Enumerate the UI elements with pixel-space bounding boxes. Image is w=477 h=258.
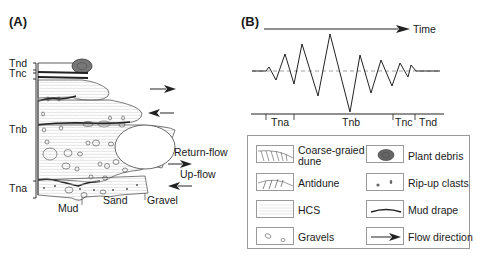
- time-arrow-icon: [264, 25, 410, 33]
- legend-label-mud-drape: Mud drape: [408, 205, 458, 216]
- wave-signal: [252, 34, 440, 112]
- panel-b-label: (B): [241, 14, 259, 29]
- up-flow-arrow-icon: [168, 182, 192, 190]
- return-flow-arrow-icon: [168, 160, 192, 168]
- legend-label-hcs: HCS: [298, 205, 320, 216]
- legend: Coarse-graied dune Plant debris Antidune…: [247, 135, 470, 249]
- grain-label-mud: Mud: [58, 202, 78, 214]
- interval-label-tnd: Tnd: [419, 116, 437, 128]
- time-label: Time: [413, 23, 436, 35]
- plant-debris-icon: [366, 145, 404, 163]
- legend-label-gravels: Gravels: [298, 232, 334, 243]
- interval-label-tnb: Tnb: [342, 116, 360, 128]
- legend-label-plant-debris: Plant debris: [408, 151, 463, 162]
- legend-label-flow-direction: Flow direction: [408, 232, 473, 243]
- legend-label-coarse-dune-line2: dune: [298, 156, 321, 167]
- flow-direction-icon: [150, 85, 176, 93]
- legend-label-rip-up-clasts: Rip-up clasts: [408, 178, 469, 189]
- legend-label-antidune: Antidune: [298, 178, 339, 189]
- return-flow-label: Return-flow: [174, 146, 228, 158]
- gravels-icon: [256, 227, 294, 245]
- rip-up-clasts-icon: [366, 173, 404, 191]
- grain-label-gravel: Gravel: [147, 194, 178, 206]
- flow-direction-icon: [366, 227, 404, 245]
- unit-label-tnc: Tnc: [9, 67, 27, 79]
- interval-label-tna: Tna: [271, 116, 289, 128]
- unit-label-tnb: Tnb: [9, 123, 27, 135]
- flow-direction-icon: [148, 109, 174, 117]
- coarse-grained-dune-icon: [256, 145, 294, 163]
- hcs-icon: [256, 200, 294, 218]
- unit-label-tna: Tna: [9, 182, 27, 194]
- grain-label-sand: Sand: [103, 194, 128, 206]
- unit-bracket: [33, 63, 36, 198]
- plant-debris-icon: [72, 59, 92, 73]
- mud-drape-icon: [366, 200, 404, 218]
- interval-label-tnc: Tnc: [395, 116, 413, 128]
- up-flow-label: Up-flow: [180, 168, 216, 180]
- antidune-icon: [256, 173, 294, 191]
